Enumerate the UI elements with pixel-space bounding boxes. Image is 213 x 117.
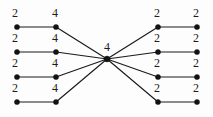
graph-vertex <box>104 56 110 62</box>
vertex-label: 4 <box>46 32 64 44</box>
vertex-label: 2 <box>6 82 24 94</box>
graph-figure: 24242424422222222 <box>0 0 213 117</box>
graph-vertex <box>53 24 58 29</box>
graph-vertex <box>194 49 199 54</box>
graph-vertex <box>14 49 19 54</box>
vertex-label: 2 <box>187 57 205 69</box>
graph-vertex <box>155 99 160 104</box>
vertex-label: 2 <box>148 82 166 94</box>
graph-vertex <box>194 99 199 104</box>
vertex-label: 4 <box>46 57 64 69</box>
graph-vertex <box>53 74 58 79</box>
graph-vertex <box>53 99 58 104</box>
graph-vertex <box>14 74 19 79</box>
vertex-label: 2 <box>6 7 24 19</box>
vertex-label: 2 <box>148 57 166 69</box>
graph-vertex <box>194 74 199 79</box>
vertex-label: 2 <box>6 57 24 69</box>
graph-vertex <box>194 24 199 29</box>
vertex-label: 2 <box>6 32 24 44</box>
graph-vertex <box>155 74 160 79</box>
graph-canvas <box>0 0 213 117</box>
graph-vertex <box>155 49 160 54</box>
graph-vertex <box>14 24 19 29</box>
graph-vertex <box>14 99 19 104</box>
vertex-layer <box>14 24 199 104</box>
vertex-label: 2 <box>148 7 166 19</box>
vertex-label: 2 <box>148 32 166 44</box>
edge-layer <box>17 27 197 102</box>
vertex-label: 4 <box>46 82 64 94</box>
graph-vertex <box>53 49 58 54</box>
vertex-label: 4 <box>98 41 116 53</box>
vertex-label: 2 <box>187 82 205 94</box>
graph-vertex <box>155 24 160 29</box>
vertex-label: 4 <box>46 7 64 19</box>
vertex-label: 2 <box>187 32 205 44</box>
vertex-label: 2 <box>187 7 205 19</box>
